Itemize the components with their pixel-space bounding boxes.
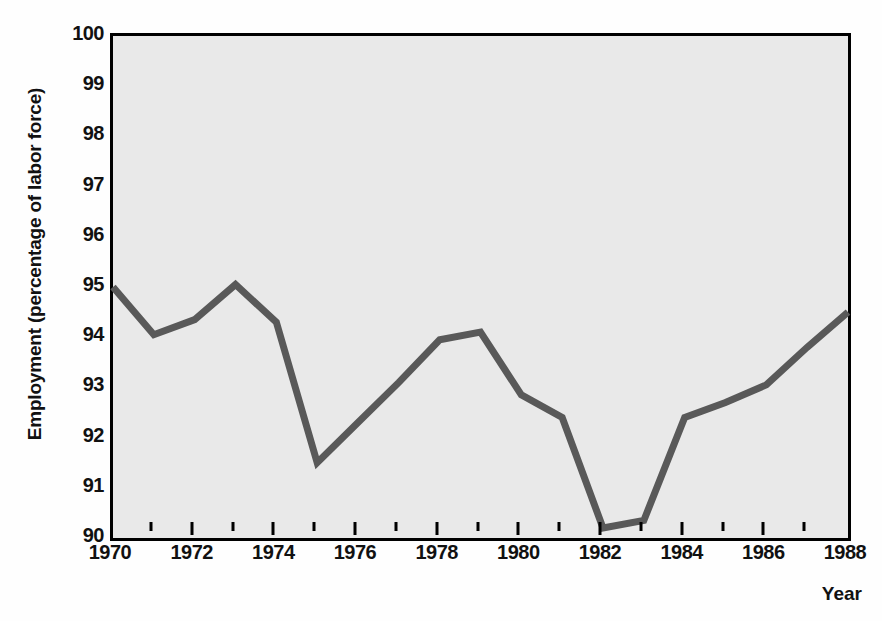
y-axis-tick-labels: 90919293949596979899100 xyxy=(52,33,104,535)
x-tick-mark-major xyxy=(680,522,683,535)
x-tick-label: 1970 xyxy=(65,541,155,564)
y-axis-title: Employment (percentage of labor force) xyxy=(24,14,46,514)
x-tick-mark-major xyxy=(517,522,520,535)
x-axis-tick-marks xyxy=(110,522,845,538)
x-tick-mark-major xyxy=(599,522,602,535)
x-tick-mark-major xyxy=(762,522,765,535)
y-tick-label: 96 xyxy=(58,222,104,245)
plot-inner xyxy=(113,36,848,538)
x-tick-label: 1984 xyxy=(637,541,727,564)
x-tick-label: 1980 xyxy=(473,541,563,564)
x-tick-label: 1982 xyxy=(555,541,645,564)
x-tick-label: 1974 xyxy=(228,541,318,564)
x-tick-mark-major xyxy=(435,522,438,535)
x-tick-mark-minor xyxy=(476,522,479,531)
y-tick-label: 97 xyxy=(58,172,104,195)
x-axis-tick-labels: 1970197219741976197819801982198419861988 xyxy=(110,541,845,571)
y-tick-label: 95 xyxy=(58,273,104,296)
x-tick-label: 1972 xyxy=(147,541,237,564)
x-tick-label: 1986 xyxy=(718,541,808,564)
x-tick-mark-minor xyxy=(394,522,397,531)
x-tick-mark-minor xyxy=(721,522,724,531)
x-tick-mark-minor xyxy=(803,522,806,531)
x-tick-mark-major xyxy=(190,522,193,535)
x-tick-mark-major xyxy=(272,522,275,535)
x-tick-label: 1988 xyxy=(800,541,882,564)
x-tick-label: 1978 xyxy=(392,541,482,564)
x-tick-label: 1976 xyxy=(310,541,400,564)
employment-line-path xyxy=(113,284,848,527)
x-tick-mark-minor xyxy=(231,522,234,531)
employment-line-series xyxy=(113,36,848,538)
y-tick-label: 98 xyxy=(58,122,104,145)
y-tick-label: 94 xyxy=(58,323,104,346)
y-tick-label: 92 xyxy=(58,423,104,446)
y-tick-label: 99 xyxy=(58,72,104,95)
plot-area xyxy=(110,33,851,541)
chart-figure: Employment (percentage of labor force) 9… xyxy=(0,0,882,621)
x-tick-mark-minor xyxy=(558,522,561,531)
y-tick-label: 91 xyxy=(58,473,104,496)
y-axis-title-container: Employment (percentage of labor force) xyxy=(0,0,52,545)
y-tick-label: 100 xyxy=(58,22,104,45)
y-tick-label: 93 xyxy=(58,373,104,396)
x-tick-mark-major xyxy=(354,522,357,535)
x-tick-mark-minor xyxy=(149,522,152,531)
x-tick-mark-minor xyxy=(639,522,642,531)
x-tick-mark-minor xyxy=(313,522,316,531)
x-axis-title: Year xyxy=(0,583,862,605)
